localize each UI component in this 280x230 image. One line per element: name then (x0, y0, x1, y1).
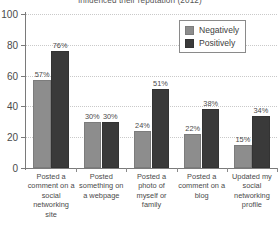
bar-chart: influenced their reputation (2012) 02040… (0, 0, 280, 230)
legend-swatch-icon (185, 39, 194, 48)
bar (184, 134, 202, 168)
bar-value-label: 30% (103, 112, 118, 121)
bar (33, 80, 51, 168)
bar (152, 89, 170, 168)
legend-label: Negatively (199, 25, 239, 35)
y-axis-tick-label: 100 (0, 9, 18, 20)
bar-value-label: 76% (53, 41, 68, 50)
x-axis-category-label: Posted something on a webpage (77, 172, 125, 200)
bar-value-label: 57% (35, 70, 50, 79)
chart-title: influenced their reputation (2012) (0, 0, 280, 5)
y-axis-tick-label: 80 (0, 39, 18, 50)
bar (102, 122, 120, 168)
x-axis-category-label: Posted a photo of myself or family (127, 172, 175, 210)
bar-value-label: 30% (85, 112, 100, 121)
bar-value-label: 38% (203, 99, 218, 108)
legend-item: Positively (185, 38, 239, 48)
legend-item: Negatively (185, 25, 239, 35)
bar-value-label: 34% (253, 106, 268, 115)
x-axis-category-label: Posted a comment on a social networking … (27, 172, 75, 219)
bar-value-label: 22% (185, 124, 200, 133)
y-axis-tick-label: 40 (0, 101, 18, 112)
bar (84, 122, 102, 168)
bar (202, 109, 220, 168)
x-axis-tick (277, 168, 278, 172)
y-axis-tick-label: 20 (0, 132, 18, 143)
x-axis-line (25, 168, 277, 169)
bar (51, 51, 69, 168)
bar (134, 131, 152, 168)
x-axis-category-label: Updated my social networking profile (228, 172, 276, 210)
bar (252, 116, 270, 168)
x-axis-category-label: Posted a comment on a blog (178, 172, 226, 200)
bar-value-label: 51% (153, 79, 168, 88)
y-axis-tick-label: 0 (0, 163, 18, 174)
bar-value-label: 15% (235, 135, 250, 144)
chart-legend: NegativelyPositively (179, 20, 246, 53)
y-axis-tick-label: 60 (0, 70, 18, 81)
legend-label: Positively (199, 38, 235, 48)
bar (234, 145, 252, 168)
legend-swatch-icon (185, 26, 194, 35)
bar-value-label: 24% (135, 121, 150, 130)
